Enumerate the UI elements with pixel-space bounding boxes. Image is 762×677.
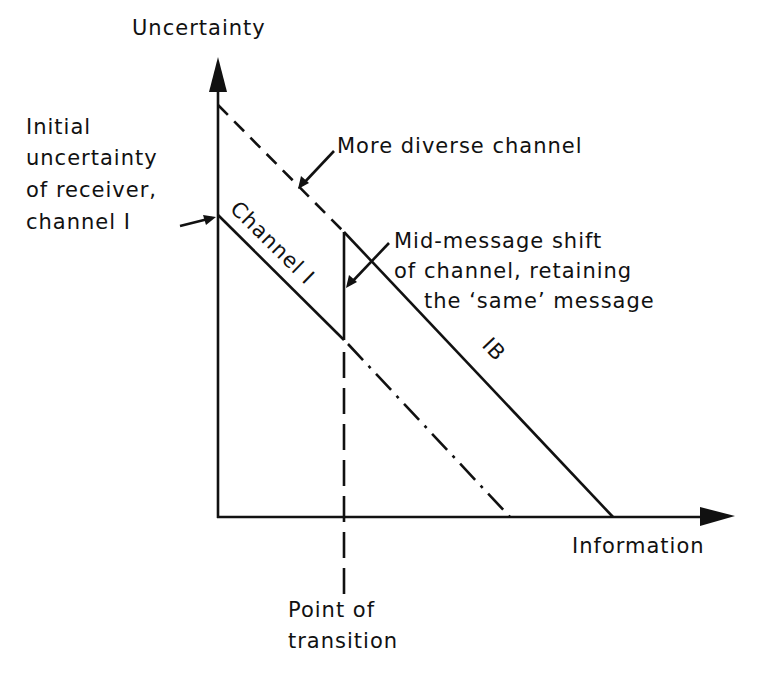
- initial-uncertainty-pointer-arrow-icon: [180, 215, 216, 226]
- x-axis-arrow-icon: [700, 507, 735, 526]
- x-axis-label: Information: [572, 534, 705, 558]
- svg-text:channel I: channel I: [26, 210, 131, 234]
- mid-message-pointer-arrow-icon: [346, 243, 389, 288]
- svg-text:uncertainty: uncertainty: [26, 146, 158, 170]
- y-axis: [209, 57, 227, 518]
- channel-one-continuation-line: [348, 344, 510, 517]
- x-axis: [217, 507, 735, 526]
- svg-text:transition: transition: [288, 629, 398, 653]
- y-axis-label: Uncertainty: [132, 16, 266, 40]
- initial-uncertainty-label: Initial uncertainty of receiver, channel…: [26, 115, 158, 234]
- svg-text:Point of: Point of: [288, 598, 375, 622]
- more-diverse-channel-label: More diverse channel: [337, 134, 583, 158]
- ib-label: IB: [477, 333, 510, 366]
- y-axis-arrow-icon: [209, 57, 227, 92]
- transition-label: Point of transition: [288, 598, 398, 653]
- uncertainty-information-diagram: Uncertainty Information Initial uncertai…: [0, 0, 762, 677]
- svg-text:the ‘same’ message: the ‘same’ message: [424, 289, 655, 313]
- svg-text:of channel, retaining: of channel, retaining: [394, 259, 632, 283]
- svg-text:of receiver,: of receiver,: [26, 178, 157, 202]
- mid-message-shift-label: Mid-message shift of channel, retaining …: [394, 229, 655, 313]
- more-diverse-pointer-arrow-icon: [298, 151, 334, 189]
- channel-one-label: Channel I: [225, 196, 319, 289]
- svg-text:Initial: Initial: [26, 115, 91, 139]
- svg-text:Mid-message shift: Mid-message shift: [394, 229, 602, 253]
